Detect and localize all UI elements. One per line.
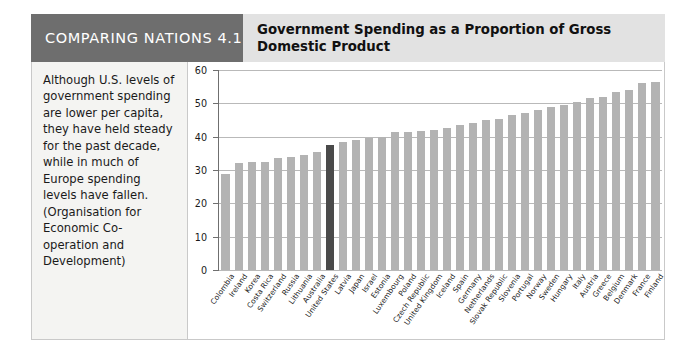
bar-finland <box>651 82 659 270</box>
header-band: COMPARING NATIONS 4.1 Government Spendin… <box>31 14 665 62</box>
bar-ireland <box>235 163 243 270</box>
y-tick-label: 0 <box>201 265 207 276</box>
bar-italy <box>573 102 581 270</box>
bar-united-states <box>326 145 334 270</box>
gridline <box>219 270 662 271</box>
y-tick-mark <box>213 170 218 171</box>
bar-austria <box>586 98 594 270</box>
y-tick-mark <box>213 137 218 138</box>
page-title: Government Spending as a Proportion of G… <box>257 21 657 55</box>
y-tick-label: 50 <box>195 98 207 109</box>
page-root: COMPARING NATIONS 4.1 Government Spendin… <box>0 0 696 358</box>
bar-israel <box>365 138 373 270</box>
y-tick-mark <box>213 237 218 238</box>
header-series-tag-label: COMPARING NATIONS 4.1 <box>45 30 242 46</box>
header-series-tag: COMPARING NATIONS 4.1 <box>31 14 243 62</box>
bar-estonia <box>378 137 386 270</box>
content-frame: Although U.S. levels of government spend… <box>31 62 665 340</box>
bar-switzerland <box>274 158 282 270</box>
bar-slovak-republic <box>495 119 503 270</box>
bars-group <box>219 70 662 270</box>
bar-sweden <box>547 107 555 270</box>
y-tick-mark <box>213 270 218 271</box>
bar-belgium <box>612 92 620 270</box>
bar-slovenia <box>508 115 516 270</box>
bar-portugal <box>521 113 529 270</box>
bar-spain <box>456 125 464 270</box>
bar-hungary <box>560 105 568 270</box>
y-tick-mark <box>213 103 218 104</box>
y-tick-label: 40 <box>195 131 207 142</box>
bar-australia <box>313 152 321 270</box>
note-text: Although U.S. levels of government spend… <box>43 72 177 269</box>
chart-panel: 0102030405060 ColombiaIrelandKoreaCosta … <box>188 62 664 339</box>
bar-latvia <box>339 142 347 270</box>
bar-france <box>638 83 646 270</box>
y-tick-mark <box>213 203 218 204</box>
bar-united-kingdom <box>430 130 438 270</box>
y-tick-label: 20 <box>195 198 207 209</box>
bar-greece <box>599 97 607 270</box>
bar-costa-rica <box>261 162 269 270</box>
y-tick-mark <box>213 70 218 71</box>
y-tick-label: 60 <box>195 65 207 76</box>
x-axis-labels-group: ColombiaIrelandKoreaCosta RicaSwitzerlan… <box>219 272 662 338</box>
y-tick-label: 10 <box>195 231 207 242</box>
bar-poland <box>404 132 412 270</box>
note-panel: Although U.S. levels of government spend… <box>32 62 188 339</box>
bar-denmark <box>625 90 633 270</box>
bar-luxembourg <box>391 132 399 270</box>
header-title-block: Government Spending as a Proportion of G… <box>243 14 665 62</box>
bar-czech-republic <box>417 131 425 270</box>
bar-lithuania <box>300 155 308 270</box>
bar-korea <box>248 162 256 270</box>
bar-iceland <box>443 128 451 270</box>
bar-japan <box>352 140 360 270</box>
bar-norway <box>534 110 542 270</box>
bar-germany <box>469 123 477 270</box>
bar-netherlands <box>482 120 490 270</box>
bar-russia <box>287 157 295 270</box>
bar-colombia <box>221 174 229 270</box>
plot-area: 0102030405060 ColombiaIrelandKoreaCosta … <box>188 62 664 339</box>
y-tick-label: 30 <box>195 165 207 176</box>
